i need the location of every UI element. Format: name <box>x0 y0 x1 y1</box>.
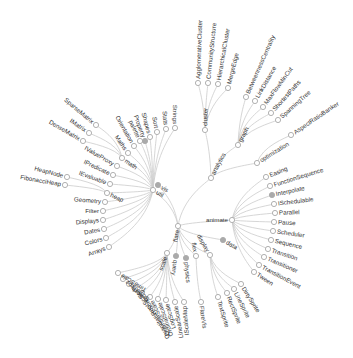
node-circle-icon[interactable] <box>102 199 107 204</box>
node-circle-icon[interactable] <box>195 80 200 85</box>
tree-node[interactable]: AgglomerativeCluster <box>194 20 203 86</box>
node-circle-icon[interactable] <box>155 296 160 301</box>
node-circle-icon[interactable] <box>64 174 69 179</box>
node-circle-icon[interactable] <box>101 226 106 231</box>
node-circle-icon[interactable] <box>80 138 85 143</box>
tree-node[interactable]: graph <box>235 125 250 147</box>
tree-node[interactable]: Parallel <box>272 208 299 216</box>
node-circle-icon[interactable] <box>193 253 198 258</box>
collapsed-node-icon[interactable] <box>220 237 225 242</box>
node-circle-icon[interactable] <box>251 269 256 274</box>
node-circle-icon[interactable] <box>235 142 240 147</box>
tree-node[interactable]: data <box>220 237 239 250</box>
node-circle-icon[interactable] <box>215 81 220 86</box>
tree-node[interactable]: FlareVis <box>198 299 208 328</box>
node-circle-icon[interactable] <box>150 187 155 192</box>
collapsed-node-icon[interactable] <box>183 255 188 260</box>
node-circle-icon[interactable] <box>229 217 234 222</box>
node-circle-icon[interactable] <box>175 223 180 228</box>
node-circle-icon[interactable] <box>104 190 109 195</box>
tree-node[interactable]: ISchedulable <box>271 195 314 206</box>
tree-node-root[interactable]: flare <box>171 223 180 242</box>
node-circle-icon[interactable] <box>254 160 259 165</box>
tree-node[interactable]: math <box>119 155 139 171</box>
node-label: MergeEdge <box>225 52 240 85</box>
collapsed-node-icon[interactable] <box>155 182 160 187</box>
node-circle-icon[interactable] <box>86 130 91 135</box>
node-circle-icon[interactable] <box>107 181 112 186</box>
node-circle-icon[interactable] <box>238 281 243 286</box>
tree-node[interactable]: query <box>171 253 180 276</box>
node-circle-icon[interactable] <box>172 125 177 130</box>
node-circle-icon[interactable] <box>164 250 169 255</box>
node-circle-icon[interactable] <box>205 80 210 85</box>
node-circle-icon[interactable] <box>263 174 268 179</box>
node-circle-icon[interactable] <box>271 201 276 206</box>
tree-node[interactable]: analytics <box>208 151 226 180</box>
tree-node[interactable]: Filter <box>85 207 105 214</box>
node-circle-icon[interactable] <box>207 252 212 257</box>
tree-nodes: analyticsclusterAgglomerativeClusterComm… <box>20 20 340 341</box>
node-circle-icon[interactable] <box>163 297 168 302</box>
node-label: cluster <box>201 108 209 126</box>
node-circle-icon[interactable] <box>114 163 119 168</box>
node-circle-icon[interactable] <box>131 143 136 148</box>
node-circle-icon[interactable] <box>62 182 67 187</box>
tree-node[interactable]: animate <box>206 216 235 223</box>
tree-node[interactable]: Dates <box>83 226 106 236</box>
node-circle-icon[interactable] <box>106 244 111 249</box>
node-circle-icon[interactable] <box>271 219 276 224</box>
node-circle-icon[interactable] <box>181 299 186 304</box>
node-circle-icon[interactable] <box>100 217 105 222</box>
collapsed-node-icon[interactable] <box>173 253 178 258</box>
tree-node[interactable]: Geometry <box>74 195 108 204</box>
node-circle-icon[interactable] <box>268 237 273 242</box>
tree-node[interactable]: Strings <box>172 105 179 131</box>
node-circle-icon[interactable] <box>198 299 203 304</box>
tree-node[interactable]: Pause <box>271 218 296 226</box>
tree-node[interactable]: optimization <box>254 140 290 166</box>
node-circle-icon[interactable] <box>154 129 159 134</box>
collapsed-node-icon[interactable] <box>142 138 147 143</box>
node-circle-icon[interactable] <box>272 210 277 215</box>
collapsed-node-icon[interactable] <box>269 192 274 197</box>
node-circle-icon[interactable] <box>270 228 275 233</box>
node-circle-icon[interactable] <box>225 85 230 90</box>
node-circle-icon[interactable] <box>163 126 168 131</box>
node-circle-icon[interactable] <box>275 117 280 122</box>
node-circle-icon[interactable] <box>224 290 229 295</box>
tree-node[interactable]: Displays <box>75 216 105 225</box>
node-circle-icon[interactable] <box>110 172 115 177</box>
node-circle-icon[interactable] <box>261 254 266 259</box>
node-circle-icon[interactable] <box>115 270 120 275</box>
node-circle-icon[interactable] <box>202 127 207 132</box>
node-circle-icon[interactable] <box>256 262 261 267</box>
node-circle-icon[interactable] <box>260 104 265 109</box>
link-d1 <box>210 255 241 284</box>
node-circle-icon[interactable] <box>147 134 152 139</box>
node-circle-icon[interactable] <box>252 98 257 103</box>
node-circle-icon[interactable] <box>243 94 248 99</box>
node-circle-icon[interactable] <box>125 150 130 155</box>
node-circle-icon[interactable] <box>93 122 98 127</box>
tree-node[interactable]: cluster <box>201 108 209 133</box>
tree-node[interactable]: Arrays <box>87 244 112 257</box>
node-circle-icon[interactable] <box>100 208 105 213</box>
node-circle-icon[interactable] <box>288 132 293 137</box>
tree-node[interactable]: flex <box>191 242 200 259</box>
node-circle-icon[interactable] <box>231 286 236 291</box>
tree-node[interactable]: Colors <box>84 235 109 246</box>
node-circle-icon[interactable] <box>215 294 220 299</box>
tree-node[interactable]: Stats <box>161 111 169 132</box>
node-circle-icon[interactable] <box>103 235 108 240</box>
node-label: math <box>124 157 140 171</box>
node-circle-icon[interactable] <box>119 155 124 160</box>
tree-node[interactable]: MergeEdge <box>225 52 240 91</box>
node-circle-icon[interactable] <box>137 138 142 143</box>
node-circle-icon[interactable] <box>265 246 270 251</box>
tree-node[interactable]: physics <box>183 255 192 282</box>
node-circle-icon[interactable] <box>267 183 272 188</box>
node-circle-icon[interactable] <box>172 299 177 304</box>
node-circle-icon[interactable] <box>208 175 213 180</box>
node-circle-icon[interactable] <box>268 110 273 115</box>
